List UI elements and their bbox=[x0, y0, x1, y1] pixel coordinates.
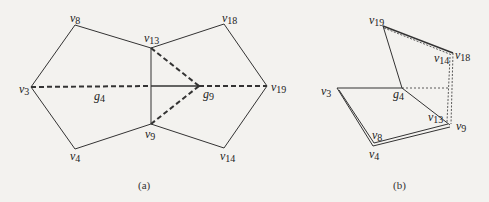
label-v13: v13 bbox=[144, 31, 159, 46]
label-v8: v8 bbox=[70, 11, 80, 26]
panel-a-labels: v8 v13 v18 v3 g4 g9 v19 v9 v4 v14 (a) bbox=[19, 11, 286, 192]
label-b-v9: v9 bbox=[456, 119, 466, 134]
label-g9: g9 bbox=[203, 87, 214, 102]
label-v9: v9 bbox=[145, 127, 155, 142]
edge-v19-v18-dashed bbox=[384, 28, 452, 55]
label-b-v4: v4 bbox=[369, 147, 379, 162]
edge-v3-v8 bbox=[339, 90, 374, 143]
label-v3: v3 bbox=[19, 82, 29, 97]
label-g4: g4 bbox=[94, 89, 105, 104]
edge-v3-v4 bbox=[337, 88, 373, 146]
edge-v4-v9 bbox=[373, 127, 450, 146]
edge-v18-v9-dashed bbox=[451, 53, 453, 124]
label-b-v18: v18 bbox=[455, 48, 470, 63]
dashed-edge-v9-g9 bbox=[151, 86, 199, 124]
label-b-v19: v19 bbox=[369, 13, 384, 28]
label-b-g4: g4 bbox=[393, 87, 404, 102]
label-b-v8: v8 bbox=[372, 128, 382, 143]
dashed-edge-v13-g9 bbox=[151, 48, 199, 86]
dashed-edge-v3-g4 bbox=[31, 86, 151, 87]
caption-b: (b) bbox=[393, 179, 406, 192]
label-b-v3: v3 bbox=[321, 84, 331, 99]
edge-v19-g4 bbox=[383, 26, 402, 88]
edge-v8-v13 bbox=[374, 124, 448, 143]
label-v14: v14 bbox=[220, 149, 235, 164]
label-v4: v4 bbox=[70, 149, 80, 164]
edge-v19-v18 bbox=[383, 26, 453, 53]
label-v18: v18 bbox=[222, 11, 237, 26]
caption-a: (a) bbox=[138, 179, 151, 192]
figure-canvas: v8 v13 v18 v3 g4 g9 v19 v9 v4 v14 (a) v1… bbox=[0, 0, 489, 202]
label-v19: v19 bbox=[271, 80, 286, 95]
label-b-v13: v13 bbox=[428, 110, 443, 125]
edge-v14-v13-dashed bbox=[447, 57, 450, 122]
panel-b bbox=[337, 26, 453, 146]
